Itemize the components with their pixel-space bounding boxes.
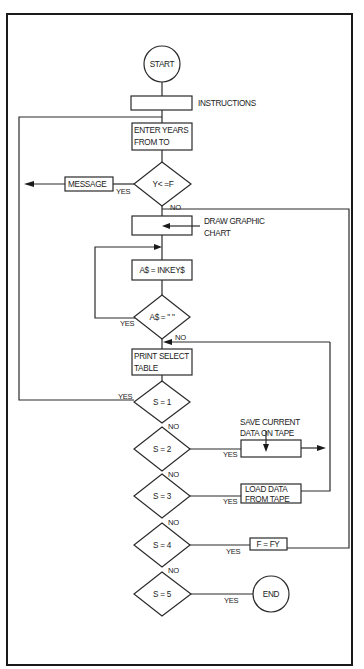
arrow-right-icon bbox=[154, 244, 162, 250]
svg-text:S = 3: S = 3 bbox=[153, 492, 172, 501]
svg-text:S = 5: S = 5 bbox=[153, 590, 172, 599]
yes-label: YES bbox=[226, 547, 241, 556]
decision-s5: S = 5 bbox=[134, 572, 191, 616]
s1-yes-loop bbox=[19, 182, 134, 400]
svg-text:S = 1: S = 1 bbox=[153, 398, 172, 407]
no-label: NO bbox=[175, 333, 186, 342]
svg-text:FROM TAPE: FROM TAPE bbox=[245, 495, 290, 504]
print-table-box: PRINT SELECT TABLE bbox=[132, 349, 192, 375]
no-label: NO bbox=[170, 203, 181, 212]
decision-s2: S = 2 bbox=[134, 427, 190, 471]
yes-label: YES bbox=[116, 187, 131, 196]
arrow-left-icon bbox=[24, 181, 34, 187]
yes-label: YES bbox=[223, 450, 238, 459]
svg-text:CHART: CHART bbox=[204, 229, 231, 238]
start-node: START bbox=[144, 46, 180, 82]
save-data-box bbox=[241, 440, 301, 457]
flowchart: START INSTRUCTIONS ENTER YEARS FROM TO Y… bbox=[0, 0, 364, 669]
no-label: NO bbox=[168, 422, 179, 431]
yes-label: YES bbox=[223, 497, 238, 506]
save-data-label: SAVE CURRENT bbox=[240, 418, 300, 427]
set-f-box: F = FY bbox=[250, 538, 287, 550]
svg-text:MESSAGE: MESSAGE bbox=[68, 180, 107, 189]
instructions-box bbox=[131, 96, 192, 110]
arrow-left-icon bbox=[163, 339, 172, 345]
load-return-line bbox=[301, 342, 330, 491]
svg-text:FROM TO: FROM TO bbox=[134, 138, 169, 147]
decision-s1: S = 1 bbox=[134, 381, 190, 423]
enter-years-box: ENTER YEARS FROM TO bbox=[132, 123, 192, 150]
svg-text:F = FY: F = FY bbox=[257, 540, 281, 549]
load-data-box: LOAD DATA FROM TAPE bbox=[241, 484, 301, 504]
end-node: END bbox=[253, 576, 289, 612]
decision-s4: S = 4 bbox=[134, 523, 190, 567]
svg-text:DATA ON TAPE: DATA ON TAPE bbox=[240, 429, 295, 438]
decision-years: Y< =F bbox=[134, 162, 191, 206]
svg-text:A$ = " ": A$ = " " bbox=[149, 313, 174, 322]
svg-text:S = 2: S = 2 bbox=[153, 445, 172, 454]
svg-text:PRINT SELECT: PRINT SELECT bbox=[134, 352, 189, 361]
svg-text:START: START bbox=[150, 60, 175, 69]
no-label: NO bbox=[168, 566, 179, 575]
svg-text:LOAD DATA: LOAD DATA bbox=[245, 485, 288, 494]
no-label: NO bbox=[168, 470, 179, 479]
message-box: MESSAGE bbox=[65, 177, 113, 191]
inkey-box: A$ = INKEY$ bbox=[132, 260, 192, 280]
yes-label: YES bbox=[118, 392, 133, 401]
svg-text:ENTER YEARS: ENTER YEARS bbox=[134, 126, 189, 135]
yes-label: YES bbox=[224, 596, 239, 605]
arrow-right-icon bbox=[317, 445, 326, 451]
svg-text:TABLE: TABLE bbox=[134, 364, 159, 373]
svg-text:Y< =F: Y< =F bbox=[153, 180, 174, 189]
decision-s3: S = 3 bbox=[134, 474, 190, 518]
svg-text:END: END bbox=[263, 590, 280, 599]
yes-label: YES bbox=[120, 319, 135, 328]
svg-text:S = 4: S = 4 bbox=[153, 541, 172, 550]
svg-text:A$ = INKEY$: A$ = INKEY$ bbox=[139, 266, 185, 275]
draw-chart-label: DRAW GRAPHIC bbox=[204, 217, 265, 226]
instructions-label: INSTRUCTIONS bbox=[198, 99, 257, 108]
no-label: NO bbox=[168, 518, 179, 527]
